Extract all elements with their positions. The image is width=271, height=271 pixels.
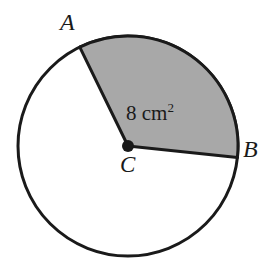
area-unit: cm (142, 101, 168, 125)
center-point-dot (122, 140, 134, 152)
figure-canvas (0, 0, 271, 271)
circle-sector-figure: A B C 8 cm2 (0, 0, 271, 271)
area-unit-exponent: 2 (167, 100, 174, 115)
point-label-a: A (60, 10, 75, 34)
sector-area-label: 8 cm2 (126, 103, 174, 124)
point-label-b: B (243, 137, 258, 161)
center-label-c: C (120, 153, 135, 176)
area-value: 8 (126, 101, 137, 125)
